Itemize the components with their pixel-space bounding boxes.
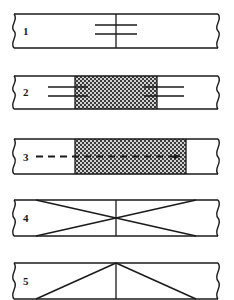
panel-2: 2 (13, 76, 220, 109)
panel-4-number: 4 (23, 212, 29, 224)
panel-5: 5 (13, 263, 220, 299)
panel-5-diagonal-left (36, 263, 116, 299)
weld-diagram-figure: 1 2 3 4 (0, 0, 234, 300)
panel-2-stipple-zone (75, 76, 157, 109)
panel-2-left-break-icon (13, 76, 16, 109)
panel-2-number: 2 (23, 86, 29, 98)
panel-1-left-break-icon (13, 14, 16, 48)
panel-5-diagonal-right (116, 263, 196, 299)
panel-4: 4 (13, 200, 220, 236)
panel-3-right-break-icon (217, 139, 220, 174)
weld-diagram-canvas: 1 2 3 4 (0, 0, 234, 300)
panel-3-number: 3 (23, 151, 29, 163)
panel-1-number: 1 (23, 25, 29, 37)
panel-4-right-break-icon (217, 200, 220, 236)
panel-5-left-break-icon (13, 263, 16, 299)
panel-2-right-break-icon (217, 76, 220, 109)
panel-3-left-break-icon (13, 139, 16, 174)
panel-3: 3 (13, 139, 220, 174)
panel-1-right-break-icon (217, 14, 220, 48)
panel-5-number: 5 (23, 275, 29, 287)
panel-4-left-break-icon (13, 200, 16, 236)
panel-5-right-break-icon (217, 263, 220, 299)
panel-1: 1 (13, 14, 220, 48)
